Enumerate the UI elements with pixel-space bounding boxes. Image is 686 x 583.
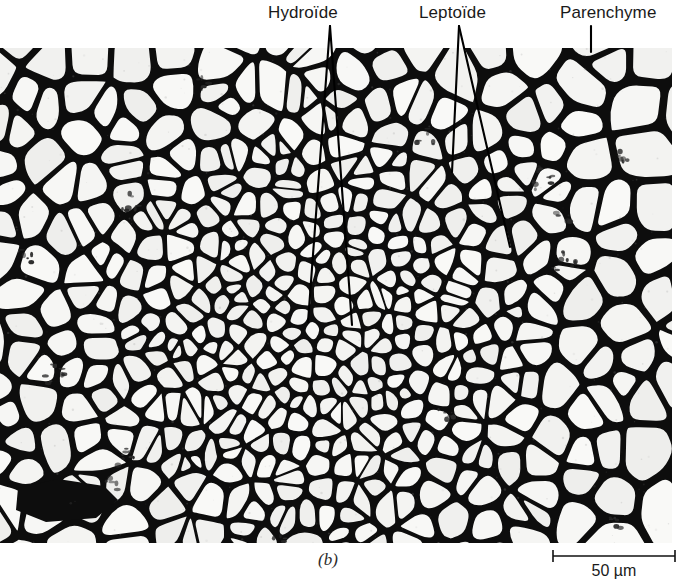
tissue-cell xyxy=(71,48,108,75)
tissue-mosaic xyxy=(0,48,672,543)
annotation-label-leptoide: Leptoïde xyxy=(419,3,486,23)
annotation-label-hydroide: Hydroïde xyxy=(268,3,338,23)
tissue-cell xyxy=(637,183,672,231)
tissue-cell xyxy=(84,338,119,360)
tissue-cell xyxy=(616,131,672,177)
tissue-cell xyxy=(633,48,672,79)
micrograph-image xyxy=(0,48,672,543)
figure-root: Hydroïde Leptoïde Parenchyme (b) 50 µm xyxy=(0,0,686,583)
scale-bar-rule xyxy=(551,549,677,563)
annotation-label-parenchyme: Parenchyme xyxy=(560,3,656,23)
tissue-cell xyxy=(148,179,177,196)
scale-bar-caption: 50 µm xyxy=(551,562,677,580)
tissue-cell xyxy=(114,48,151,82)
panel-letter: (b) xyxy=(318,550,338,570)
scale-bar: 50 µm xyxy=(551,549,677,583)
